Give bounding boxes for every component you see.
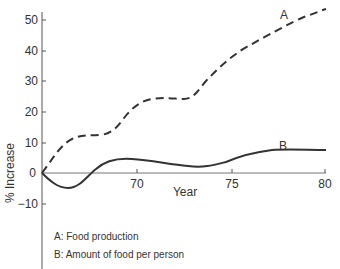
svg-text:50: 50 bbox=[25, 13, 39, 27]
svg-text:−10: −10 bbox=[18, 197, 39, 211]
svg-text:30: 30 bbox=[25, 74, 39, 88]
curve-label-a: A bbox=[280, 8, 288, 22]
curve-label-b: B bbox=[279, 139, 287, 153]
svg-text:75: 75 bbox=[225, 177, 239, 191]
svg-text:0: 0 bbox=[29, 166, 36, 180]
chart-svg: 50 40 30 20 10 0 −10 70 75 80 Year % Inc… bbox=[0, 0, 340, 269]
y-axis-label: % Increase bbox=[3, 143, 17, 203]
y-tick-labels: 50 40 30 20 10 0 −10 bbox=[18, 13, 39, 211]
svg-text:20: 20 bbox=[25, 105, 39, 119]
series-b-line bbox=[42, 150, 326, 188]
svg-text:10: 10 bbox=[25, 136, 39, 150]
x-tick-labels: 70 75 80 bbox=[130, 177, 332, 191]
legend-item-b: B: Amount of food per person bbox=[54, 249, 184, 260]
svg-text:70: 70 bbox=[130, 177, 144, 191]
legend-item-a: A: Food production bbox=[54, 231, 139, 242]
x-axis-label: Year bbox=[173, 185, 197, 199]
svg-text:40: 40 bbox=[25, 44, 39, 58]
x-ticks bbox=[137, 169, 325, 173]
svg-text:80: 80 bbox=[318, 177, 332, 191]
